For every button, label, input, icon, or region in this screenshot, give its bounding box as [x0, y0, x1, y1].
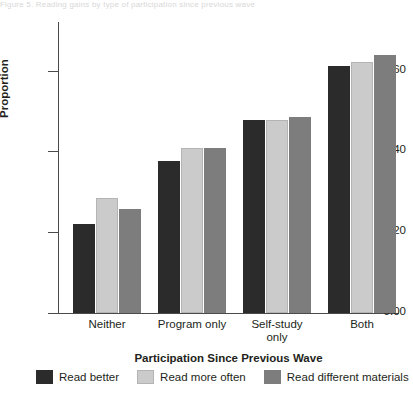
- legend-swatch: [36, 370, 53, 384]
- x-axis-category-label: Both: [307, 318, 413, 331]
- y-axis-tick: [48, 232, 58, 233]
- bar: [73, 224, 95, 313]
- legend-item: Read different materials: [264, 370, 409, 384]
- x-axis-line: [58, 313, 399, 314]
- y-axis-tick: [48, 151, 58, 152]
- bar: [243, 120, 265, 313]
- bar: [158, 161, 180, 313]
- legend-item: Read better: [36, 370, 119, 384]
- legend-label: Read better: [59, 371, 119, 383]
- y-axis-tick: [48, 71, 58, 72]
- bar: [351, 62, 373, 313]
- x-axis-title: Participation Since Previous Wave: [58, 352, 399, 364]
- bar: [289, 117, 311, 313]
- legend-label: Read more often: [160, 371, 246, 383]
- cut-off-caption-ghost: Figure 5. Reading gains by type of parti…: [0, 0, 406, 11]
- legend-label: Read different materials: [287, 371, 409, 383]
- legend-item: Read more often: [137, 370, 246, 384]
- chart-legend: Read betterRead more oftenRead different…: [36, 369, 396, 385]
- legend-swatch: [137, 370, 154, 384]
- bar: [374, 55, 396, 313]
- bar: [119, 209, 141, 313]
- y-axis-tick: [48, 313, 58, 314]
- bar: [266, 120, 288, 313]
- bar: [96, 198, 118, 313]
- bar: [181, 148, 203, 313]
- bar: [204, 148, 226, 313]
- bar: [328, 66, 350, 313]
- legend-swatch: [264, 370, 281, 384]
- y-axis-title: Proportion: [0, 59, 10, 118]
- plot-area: [58, 22, 399, 313]
